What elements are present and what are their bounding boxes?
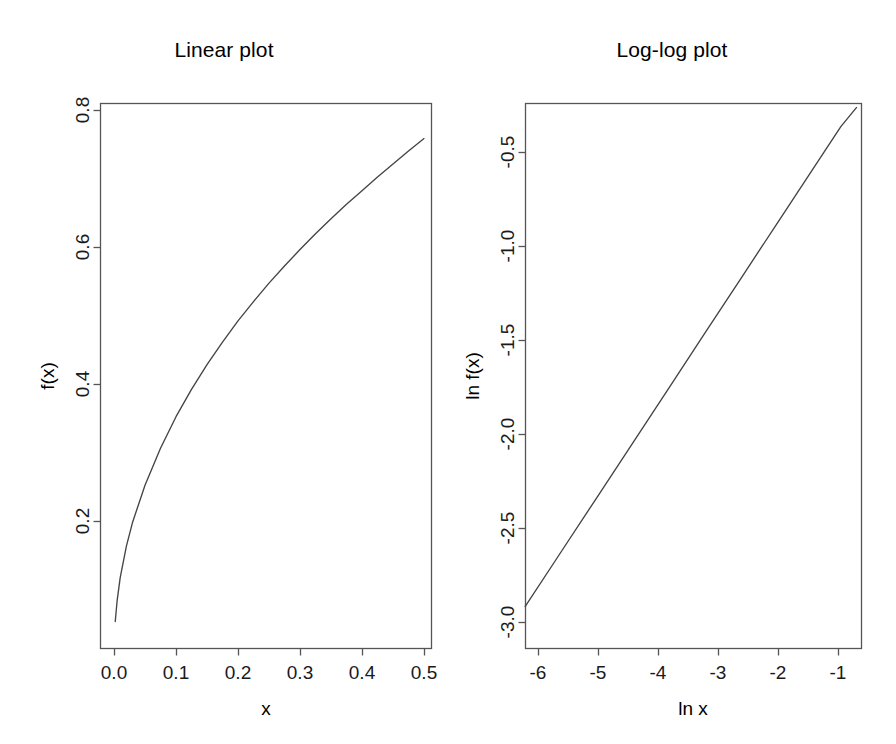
panel-linear-plot: Linear plot 0.8 0.6 0.4 0.2 f(x) xyxy=(0,0,448,744)
x-tick-label-loglog: -1 xyxy=(830,662,847,683)
y-tick-label-linear: 0.6 xyxy=(72,234,93,260)
loglog-plot-svg: -0.5 -1.0 -1.5 -2.0 -2.5 -3.0 ln f(x) -6… xyxy=(448,0,896,744)
x-axis-title-linear: x xyxy=(261,698,271,719)
x-tick-label-loglog: -4 xyxy=(650,662,667,683)
plot-box-linear xyxy=(101,104,432,649)
x-tick-label-loglog: -6 xyxy=(530,662,547,683)
x-tick-label-linear: 0.0 xyxy=(101,662,127,683)
x-tick-label-linear: 0.4 xyxy=(349,662,376,683)
x-axis-ticks-linear xyxy=(115,649,425,656)
y-tick-label-loglog: -2.5 xyxy=(497,512,518,545)
plot-box-loglog xyxy=(526,104,862,649)
y-axis-ticks-loglog xyxy=(519,153,526,623)
x-tick-label-loglog: -2 xyxy=(770,662,787,683)
y-tick-label-loglog: -3.0 xyxy=(497,606,518,639)
data-line-loglog xyxy=(525,108,856,607)
x-tick-label-loglog: -3 xyxy=(710,662,727,683)
y-axis-ticks-linear xyxy=(94,111,101,522)
linear-plot-svg: 0.8 0.6 0.4 0.2 f(x) 0.0 0.1 0.2 0.3 0.4… xyxy=(0,0,448,744)
y-tick-label-loglog: -1.5 xyxy=(497,324,518,357)
panel-loglog-plot: Log-log plot -0.5 -1.0 -1.5 -2.0 -2.5 -3… xyxy=(448,0,896,744)
data-curve-linear xyxy=(115,139,424,622)
y-axis-title-loglog: ln f(x) xyxy=(462,352,483,400)
x-tick-label-linear: 0.1 xyxy=(163,662,189,683)
figure-canvas: Linear plot 0.8 0.6 0.4 0.2 f(x) xyxy=(0,0,896,744)
y-tick-label-loglog: -0.5 xyxy=(497,136,518,169)
y-axis-title-linear: f(x) xyxy=(37,362,58,389)
y-tick-label-linear: 0.4 xyxy=(72,370,93,397)
x-axis-title-loglog: ln x xyxy=(678,698,708,719)
y-tick-label-linear: 0.8 xyxy=(72,97,93,123)
x-tick-label-loglog: -5 xyxy=(590,662,607,683)
x-tick-label-linear: 0.2 xyxy=(225,662,251,683)
y-tick-label-linear: 0.2 xyxy=(72,508,93,534)
x-axis-ticks-loglog xyxy=(539,649,839,656)
y-tick-label-loglog: -2.0 xyxy=(497,418,518,451)
x-tick-label-linear: 0.5 xyxy=(411,662,437,683)
x-tick-label-linear: 0.3 xyxy=(287,662,313,683)
y-tick-label-loglog: -1.0 xyxy=(497,230,518,263)
